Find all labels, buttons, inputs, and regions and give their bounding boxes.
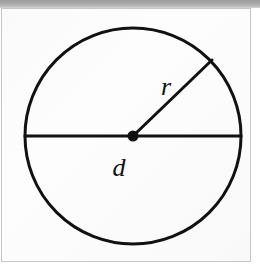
radius-line xyxy=(133,60,212,136)
radius-label: r xyxy=(161,72,172,101)
circle-diagram-figure: r d xyxy=(0,0,260,272)
circle-diagram-svg: r d xyxy=(0,0,260,272)
diameter-label: d xyxy=(113,153,127,182)
center-point-dot xyxy=(128,131,139,142)
